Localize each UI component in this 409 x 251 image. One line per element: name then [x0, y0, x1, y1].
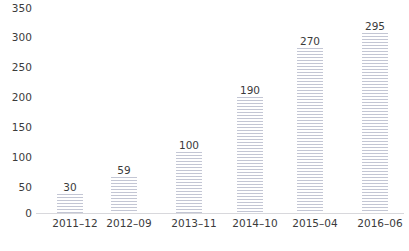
bar-chart: 350 300 250 200 150 100 50 0 30 59 100 1… [0, 0, 409, 251]
y-axis: 350 300 250 200 150 100 50 0 [0, 0, 32, 220]
x-tick-label-5: 2016–06 [333, 216, 409, 230]
plot-area: 30 59 100 190 270 295 [36, 0, 404, 214]
bar-group-0: 30 [57, 194, 83, 213]
bar-value-label-0: 30 [35, 181, 105, 193]
bar-value-label-5: 295 [340, 20, 409, 32]
bar-2014-10 [237, 97, 263, 213]
y-tick-label-200: 200 [0, 92, 32, 103]
bar-2012-09 [111, 177, 137, 213]
y-tick-label-350: 350 [0, 3, 32, 14]
bar-2011-12 [57, 194, 83, 213]
bar-2015-04 [297, 48, 323, 213]
x-axis: 2011–12 2012–09 2013–11 2014–10 2015–04 … [36, 216, 404, 236]
bar-group-2: 100 [176, 152, 202, 213]
y-tick-label-250: 250 [0, 62, 32, 73]
bar-group-3: 190 [237, 97, 263, 213]
y-tick-label-100: 100 [0, 152, 32, 163]
bar-group-4: 270 [297, 48, 323, 213]
bar-group-1: 59 [111, 177, 137, 213]
bar-value-label-2: 100 [154, 139, 224, 151]
y-tick-label-50: 50 [0, 182, 32, 193]
bar-value-label-1: 59 [89, 164, 159, 176]
y-tick-label-300: 300 [0, 32, 32, 43]
y-tick-label-150: 150 [0, 122, 32, 133]
bar-2016-06 [362, 33, 388, 213]
bar-value-label-3: 190 [215, 84, 285, 96]
bar-group-5: 295 [362, 33, 388, 213]
bar-2013-11 [176, 152, 202, 213]
bar-value-label-4: 270 [275, 35, 345, 47]
x-axis-baseline [36, 213, 404, 214]
